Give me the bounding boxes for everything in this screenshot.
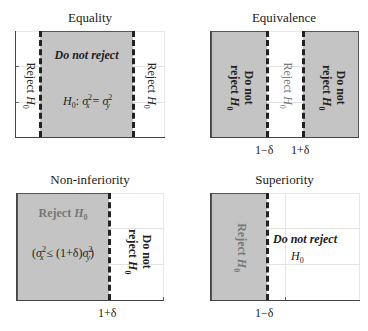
do-not-reject-region [40,31,133,137]
reject-h0-label: Reject H0 [17,207,109,224]
do-not-reject-h0-label: Do not reject H0 [120,218,153,286]
tick-1-plus-delta: 1+δ [291,143,309,158]
x-tick [285,297,286,300]
plot-non-inferiority: Reject H0 (σ2x ≤ (1+δ)σ2y) Do not reject… [16,193,164,301]
do-not-reject-h0-right-label: Do not reject H0 [314,54,347,122]
h0-label: H0 [291,250,321,267]
do-not-reject-h0-left-label: Do not reject H0 [222,54,255,122]
panel-title-equivalence: Equivalence [210,10,358,26]
tick-1-minus-delta: 1−δ [255,143,273,158]
do-not-reject-label: Do not reject [273,233,353,246]
do-not-reject-label: Do not reject [40,49,133,62]
gridline [285,193,286,300]
reject-h0-right-label: Reject H0 [140,54,157,118]
tick-1-minus-delta: 1−δ [255,306,273,321]
boundary-line [266,193,269,300]
reject-h0-center-label: Reject H0 [276,54,293,118]
plot-equivalence: Do not reject H0 Reject H0 Do not reject… [210,31,359,138]
panel-title-superiority: Superiority [210,172,359,188]
upper-boundary-line [302,31,305,137]
plot-superiority: Reject H0 Do not reject H0 [210,193,360,301]
null-hypothesis-label: H0: σ2x = σ2y [40,91,133,112]
lower-boundary-line [39,31,42,137]
panel-title-non-inferiority: Non-inferiority [16,172,164,188]
x-tick [163,297,164,300]
plot-frame-right [163,193,164,300]
reject-h0-left-label: Reject H0 [19,54,36,118]
non-inferiority-condition-label: (σ2x ≤ (1+δ)σ2y) [17,243,109,264]
lower-boundary-line [266,31,269,137]
reject-h0-label: Reject H0 [230,216,247,280]
plot-frame-right [164,31,165,137]
plot-equality: Reject H0 Do not reject H0: σ2x = σ2y Re… [15,31,165,138]
panel-title-equality: Equality [15,10,165,26]
tick-1-plus-delta: 1+δ [98,306,116,321]
upper-boundary-line [132,31,135,137]
plot-frame-right [359,193,360,300]
